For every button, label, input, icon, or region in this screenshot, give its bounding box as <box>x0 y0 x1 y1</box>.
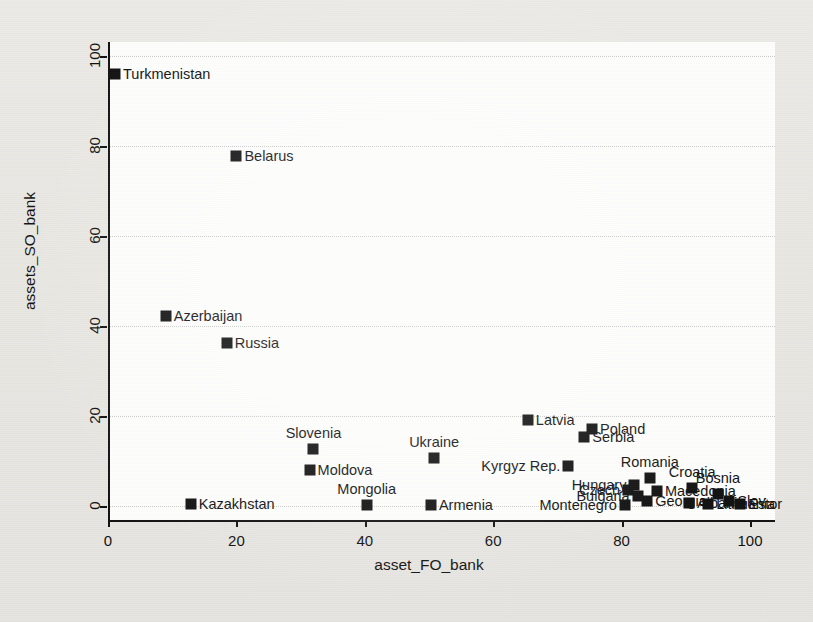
gridline <box>110 326 775 327</box>
gridline <box>110 416 775 417</box>
scatter-point-label: Belarus <box>244 149 293 164</box>
scatter-marker <box>361 499 372 510</box>
scatter-point-label: Estor <box>748 497 782 512</box>
scatter-point-label: Turkmenistan <box>123 67 210 82</box>
scatter-point-label: Montenegro <box>539 498 616 513</box>
x-axis-tick <box>750 520 752 527</box>
scatter-point-label: Serbia <box>592 430 634 445</box>
plot-area <box>108 42 775 522</box>
scatter-point-label: Ukraine <box>409 434 459 449</box>
scatter-point-label: Slovenia <box>286 426 342 441</box>
scatter-marker <box>619 500 630 511</box>
scatter-point-label: Moldova <box>318 463 373 478</box>
scatter-point-label: Bosnia <box>696 471 740 486</box>
scatter-point-label: Kazakhstan <box>199 497 275 512</box>
scatter-marker <box>160 311 171 322</box>
gridline <box>110 146 775 147</box>
y-axis-tick-label: 80 <box>86 137 103 154</box>
y-axis-tick-label: 60 <box>86 227 103 244</box>
x-axis-tick <box>365 520 367 527</box>
scatter-point-label: Azerbaijan <box>174 309 243 324</box>
y-axis-tick-label: 100 <box>86 43 103 68</box>
x-axis-tick-label: 20 <box>228 532 245 549</box>
y-axis-title: assets_SO_bank <box>21 250 39 310</box>
x-axis-title: asset_FO_bank <box>374 556 483 574</box>
scatter-point-label: Mongolia <box>337 481 396 496</box>
scatter-plot-figure: 020406080100020406080100 TurkmenistanBel… <box>0 0 813 622</box>
scatter-marker <box>684 498 695 509</box>
scatter-point-label: Kyrgyz Rep. <box>481 459 560 474</box>
scatter-marker <box>563 460 574 471</box>
x-axis-tick-label: 100 <box>737 532 762 549</box>
x-axis-tick-label: 80 <box>613 532 630 549</box>
scatter-point-label: Armenia <box>439 498 493 513</box>
x-axis-tick-label: 40 <box>356 532 373 549</box>
scatter-marker <box>644 473 655 484</box>
gridline <box>110 236 775 237</box>
scatter-marker <box>579 432 590 443</box>
scatter-marker <box>735 499 746 510</box>
scatter-marker <box>522 415 533 426</box>
scatter-marker <box>642 495 653 506</box>
x-axis-tick <box>236 520 238 527</box>
gridline <box>110 56 775 57</box>
scatter-marker <box>703 498 714 509</box>
y-axis-tick-label: 0 <box>86 501 103 509</box>
y-axis-tick-label: 40 <box>86 317 103 334</box>
x-axis-tick-label: 0 <box>104 532 112 549</box>
x-axis-tick <box>622 520 624 527</box>
x-axis-tick <box>108 520 110 527</box>
scatter-marker <box>231 150 242 161</box>
scatter-marker <box>308 444 319 455</box>
x-axis-tick-label: 60 <box>485 532 502 549</box>
scatter-marker <box>425 500 436 511</box>
scatter-marker <box>110 69 121 80</box>
scatter-marker <box>429 452 440 463</box>
x-axis-tick <box>493 520 495 527</box>
scatter-marker <box>304 465 315 476</box>
y-axis-tick-label: 20 <box>86 407 103 424</box>
scatter-point-label: Russia <box>235 336 279 351</box>
scatter-marker <box>221 338 232 349</box>
scatter-marker <box>185 499 196 510</box>
scatter-point-label: Latvia <box>536 413 575 428</box>
